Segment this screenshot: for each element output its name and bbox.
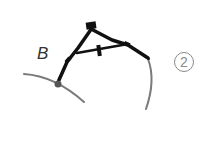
- arc-through-b: [24, 74, 84, 102]
- point-label: B: [37, 45, 48, 62]
- step-number: 2: [180, 55, 188, 69]
- arc-drawn-by-compass: [146, 59, 152, 109]
- step-number-badge: 2: [174, 52, 194, 72]
- diagram-graphic: [0, 0, 208, 147]
- compass-construction-diagram: B 2: [0, 0, 208, 147]
- compass-icon: [57, 21, 149, 83]
- point-b-marker: [55, 81, 62, 88]
